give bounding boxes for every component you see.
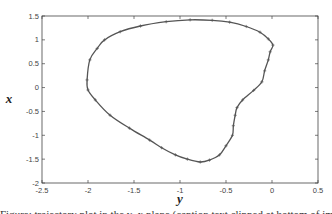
chart: -2.5-2-1.5-1-0.500.5 -2-1.5-1-0.500.511.… [0, 0, 332, 214]
plot-area [42, 16, 318, 183]
x-tick-label: 0 [270, 186, 274, 195]
y-tick-label: -0.5 [26, 107, 39, 116]
y-tick-label: -1 [32, 131, 39, 140]
y-tick-label: 1 [35, 35, 39, 44]
y-tick-label: -2 [32, 179, 39, 188]
y-tick-label: 1.5 [29, 12, 39, 21]
x-tick-label: -1.5 [128, 186, 141, 195]
y-tick-label: 0 [35, 83, 39, 92]
y-axis-label: x [5, 91, 13, 106]
figure-caption: Figure: trajectory plot in the y–x plane… [0, 207, 332, 214]
x-tick-label: -0.5 [220, 186, 233, 195]
x-axis-label: y [175, 191, 183, 206]
y-tick-label: 0.5 [29, 59, 39, 68]
axes-frame [42, 16, 318, 183]
y-tick-label: -1.5 [26, 155, 39, 164]
x-tick-label: -2 [85, 186, 92, 195]
x-tick-label: 0.5 [313, 186, 323, 195]
